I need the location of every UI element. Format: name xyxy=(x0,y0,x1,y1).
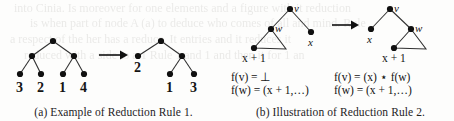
rule2-nodes-after xyxy=(368,6,414,51)
node-x-before xyxy=(308,29,314,35)
subtree-label-before: x + 1 xyxy=(242,52,266,64)
result-label-1: 1 xyxy=(166,80,173,96)
tree-leaf-node xyxy=(81,71,87,77)
subtree-corner-node xyxy=(391,45,397,51)
node-w-before xyxy=(268,26,274,32)
tree-leaf-node xyxy=(38,71,44,77)
tree-leaf-node xyxy=(17,71,23,77)
caption-panel-a: (a) Example of Reduction Rule 1. xyxy=(0,106,227,118)
tree-node xyxy=(50,38,56,44)
tree-nodes-after xyxy=(135,38,197,77)
panel-reduction-rule-2: v w x x + 1 v x w x + 1 f(v) = ⊥ f(w) = … xyxy=(227,0,454,121)
transform-arrow-b xyxy=(332,21,359,30)
leaf-label-2: 2 xyxy=(37,80,44,96)
node-label-w-before: w xyxy=(275,22,282,34)
figure-container: into Cinia. Is moreover for one elements… xyxy=(0,0,454,121)
transform-arrow-a xyxy=(99,51,128,60)
equation-fv-before: f(v) = ⊥ xyxy=(231,70,270,84)
caption-panel-b: (b) Illustration of Reduction Rule 2. xyxy=(227,106,454,118)
node-label-v-before: v xyxy=(294,2,299,14)
node-label-v-after: v xyxy=(394,2,399,14)
node-v-after xyxy=(387,6,393,12)
subtree-corner-node xyxy=(251,45,257,51)
result-label-2: 2 xyxy=(134,60,141,76)
result-label-3: 3 xyxy=(190,80,197,96)
equation-fw-after: f(w) = (x + 1,…) xyxy=(334,84,412,96)
node-x-after xyxy=(368,26,374,32)
equation-fw-before: f(w) = (x + 1,…) xyxy=(231,84,309,96)
tree-node xyxy=(29,53,35,59)
node-label-x-after: x xyxy=(367,33,372,45)
leaf-label-3: 3 xyxy=(16,80,23,96)
node-v-before xyxy=(287,6,293,12)
equation-fv-after: f(v) = (x) ⋆ f(w) xyxy=(334,70,410,84)
node-label-w-after: w xyxy=(415,22,422,34)
tree-node xyxy=(158,38,164,44)
tree-nodes-before xyxy=(17,38,87,77)
node-w-after xyxy=(408,26,414,32)
subtree-label-after: x + 1 xyxy=(382,52,406,64)
tree-node xyxy=(179,53,185,59)
tree-node xyxy=(135,53,141,59)
tree-leaf-node xyxy=(60,71,66,77)
tree-leaf-node xyxy=(167,71,173,77)
panel-reduction-rule-1: 3 2 1 4 2 1 3 (a) Example of Reduction R… xyxy=(0,0,227,121)
tree-edges-after xyxy=(138,41,194,74)
tree-node xyxy=(71,53,77,59)
leaf-label-4: 4 xyxy=(80,80,87,96)
rule2-edges-after xyxy=(371,9,411,29)
leaf-label-1: 1 xyxy=(59,80,66,96)
tree-leaf-node xyxy=(191,71,197,77)
node-label-x-before: x xyxy=(308,36,313,48)
